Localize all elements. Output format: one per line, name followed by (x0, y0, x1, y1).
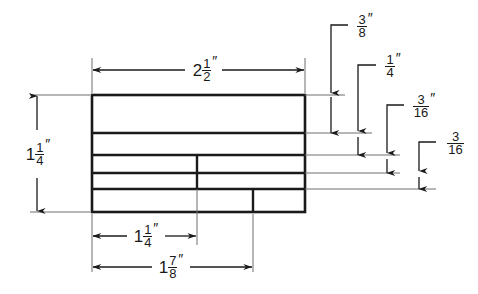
inch-mark: ″ (430, 91, 435, 105)
fraction-denominator: 16 (447, 144, 463, 156)
dimension-band-one-quarter (358, 65, 376, 155)
leader-band-3 (387, 105, 404, 153)
inch-mark: ″ (153, 221, 158, 235)
label-band-one-quarter: 1 4 ″ (376, 51, 410, 81)
label-overall-width-fraction: 1 2 (202, 58, 211, 83)
inch-mark: ″ (212, 54, 217, 68)
panel-outer-rectangle (92, 95, 305, 212)
label-overall-height-whole: 1 (26, 146, 35, 163)
label-band-three-eighths: 3 8 ″ (348, 11, 382, 41)
label-band-three-sixteenths-lower: 3 16 (436, 128, 476, 158)
label-outer-width: 1 7 8 ″ (150, 252, 192, 282)
label-overall-width-whole: 2 (193, 62, 202, 79)
label-band-1-fraction: 3 8 (357, 14, 366, 39)
leader-band-4 (419, 142, 436, 171)
label-inner-width-whole: 1 (134, 228, 143, 245)
inch-mark: ″ (396, 51, 401, 65)
label-band-4-fraction: 3 16 (447, 131, 463, 156)
dimension-band-three-sixteenths-upper (387, 105, 404, 173)
label-overall-height: 1 1 4 ″ (16, 137, 60, 171)
leader-band-2 (358, 65, 376, 131)
inch-mark: ″ (45, 137, 50, 151)
label-band-2-fraction: 1 4 (385, 54, 394, 79)
technical-drawing-svg (0, 0, 478, 294)
fraction-denominator: 4 (385, 67, 394, 79)
label-band-3-fraction: 3 16 (413, 94, 429, 119)
label-inner-width-fraction: 1 4 (143, 224, 152, 249)
dimension-band-three-eighths (331, 25, 348, 133)
drawing-canvas: 2 1 2 ″ 1 1 4 ″ 1 1 4 ″ 1 7 8 ″ 3 (0, 0, 478, 294)
fraction-denominator: 8 (357, 27, 366, 39)
inch-mark: ″ (368, 11, 373, 25)
fraction-denominator: 4 (143, 237, 152, 249)
leader-band-1 (331, 25, 348, 93)
label-overall-height-fraction: 1 4 (35, 142, 44, 167)
label-inner-width: 1 1 4 ″ (125, 221, 167, 251)
label-overall-width: 2 1 2 ″ (184, 54, 226, 86)
part-outline (92, 95, 305, 212)
inch-mark: ″ (178, 252, 183, 266)
fraction-denominator: 16 (413, 107, 429, 119)
dimension-band-three-sixteenths-lower (419, 142, 436, 189)
label-band-three-sixteenths-upper: 3 16 ″ (404, 91, 444, 121)
fraction-denominator: 4 (35, 155, 44, 167)
fraction-denominator: 2 (202, 71, 211, 83)
fraction-denominator: 8 (168, 268, 177, 280)
label-outer-width-fraction: 7 8 (168, 255, 177, 280)
label-outer-width-whole: 1 (159, 259, 168, 276)
